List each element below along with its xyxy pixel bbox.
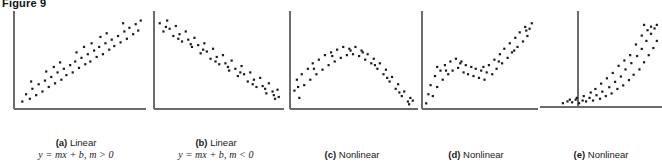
data-point — [624, 68, 626, 70]
data-point — [262, 85, 264, 87]
data-point — [324, 54, 326, 56]
data-point — [44, 80, 46, 82]
data-point — [576, 97, 578, 99]
data-point — [622, 84, 624, 86]
data-point — [202, 49, 204, 51]
data-point — [259, 77, 261, 79]
data-point-group — [21, 19, 142, 102]
data-point — [397, 83, 399, 85]
data-point — [273, 94, 275, 96]
data-point — [313, 68, 315, 70]
data-point — [177, 38, 179, 40]
data-point — [91, 42, 93, 44]
data-point — [601, 91, 603, 93]
data-point — [373, 58, 375, 60]
panel-caption: (c) Nonlinear — [286, 149, 418, 161]
data-point — [340, 57, 342, 59]
data-point — [656, 24, 658, 26]
scatter-panel-c: (c) Nonlinear — [286, 11, 418, 163]
data-point — [296, 79, 298, 81]
data-point — [382, 73, 384, 75]
caption-label: Linear — [70, 137, 96, 148]
data-point — [620, 75, 622, 77]
data-point — [379, 62, 381, 64]
data-point — [330, 51, 332, 53]
data-point — [98, 46, 100, 48]
data-point — [165, 26, 167, 28]
data-point — [247, 80, 249, 82]
data-point — [566, 100, 568, 102]
data-point — [298, 97, 300, 99]
data-point — [140, 19, 142, 21]
data-point — [102, 53, 104, 55]
data-point — [342, 46, 344, 48]
data-point — [231, 59, 233, 61]
caption-equation: y = mx + b, m < 0 — [148, 149, 284, 161]
data-point — [106, 32, 108, 34]
data-point — [96, 56, 98, 58]
data-point — [509, 42, 511, 44]
data-point — [53, 66, 55, 68]
data-point — [48, 86, 50, 88]
data-point — [606, 77, 608, 79]
data-point — [352, 53, 354, 55]
data-point — [425, 102, 427, 104]
data-point — [656, 40, 658, 42]
data-point — [119, 41, 121, 43]
data-point — [526, 35, 528, 37]
data-point — [588, 97, 590, 99]
data-point — [31, 88, 33, 90]
data-point — [483, 79, 485, 81]
data-point — [234, 68, 236, 70]
data-point — [478, 77, 480, 79]
data-point — [80, 57, 82, 59]
data-point — [83, 46, 85, 48]
data-point — [21, 100, 23, 102]
data-point — [175, 25, 177, 27]
data-point — [84, 63, 86, 65]
data-point — [74, 60, 76, 62]
data-point-group — [425, 22, 533, 104]
data-point — [395, 88, 397, 90]
data-point — [185, 30, 187, 32]
data-point — [599, 98, 601, 100]
data-point — [197, 44, 199, 46]
data-point — [457, 67, 459, 69]
data-point — [137, 29, 139, 31]
data-point — [169, 28, 171, 30]
data-point-group — [293, 46, 414, 106]
data-point — [605, 95, 607, 97]
data-point — [315, 73, 317, 75]
data-point — [271, 90, 273, 92]
plot-area — [414, 11, 538, 111]
data-point — [524, 26, 526, 28]
data-point — [336, 49, 338, 51]
data-point — [346, 54, 348, 56]
data-point — [349, 49, 351, 51]
scatter-panel-e: (e) Nonlinear — [540, 11, 662, 163]
data-point — [646, 29, 648, 31]
data-point — [389, 80, 391, 82]
data-point — [617, 65, 619, 67]
data-point — [445, 70, 447, 72]
data-point — [276, 89, 278, 91]
data-point — [398, 91, 400, 93]
caption-label: Nonlinear — [588, 149, 629, 160]
data-point — [522, 40, 524, 42]
data-point — [69, 64, 71, 66]
panel-caption: (a) Lineary = mx + b, m > 0 — [6, 137, 146, 161]
data-point — [218, 63, 220, 65]
data-point — [56, 71, 58, 73]
data-point — [491, 73, 493, 75]
data-point — [614, 81, 616, 83]
data-point — [278, 96, 280, 98]
data-point — [611, 92, 613, 94]
data-point — [227, 66, 229, 68]
data-point — [447, 73, 449, 75]
data-point — [514, 37, 516, 39]
data-point — [470, 66, 472, 68]
caption-label: Nonlinear — [339, 149, 380, 160]
data-point — [444, 64, 446, 66]
data-point — [472, 75, 474, 77]
data-point — [203, 42, 205, 44]
